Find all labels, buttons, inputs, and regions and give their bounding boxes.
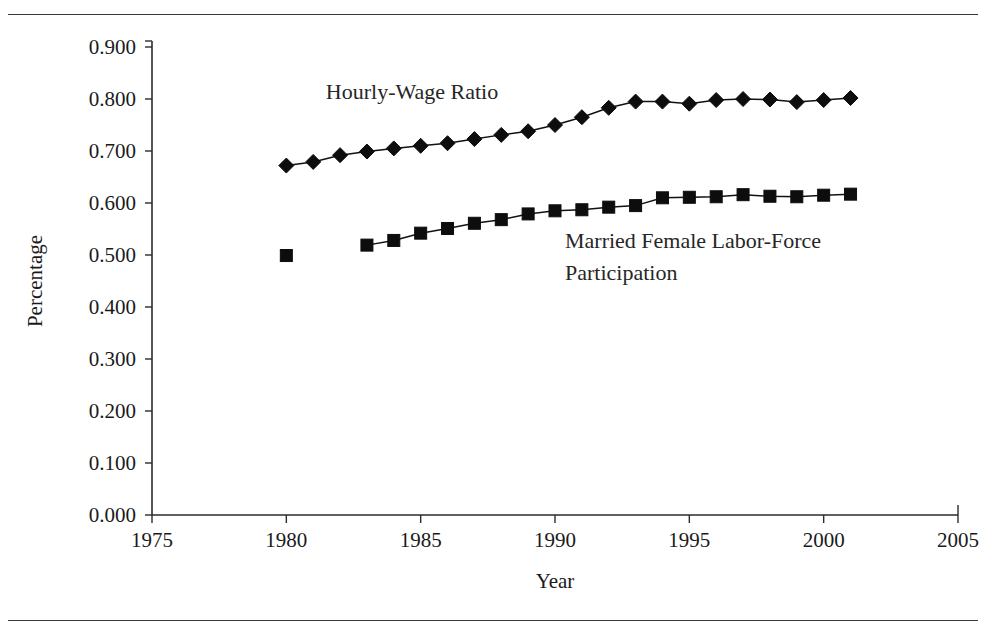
chart-plot: 0.0000.1000.2000.3000.4000.5000.6000.700… — [0, 0, 986, 637]
data-point-diamond — [789, 95, 804, 110]
y-tick-label: 0.500 — [89, 243, 136, 267]
data-point-square — [683, 191, 695, 203]
y-tick-label: 0.600 — [89, 191, 136, 215]
x-tick-label: 2005 — [937, 528, 979, 552]
series-annotation-hourly-wage-ratio: Hourly-Wage Ratio — [326, 79, 498, 104]
data-point-square — [415, 227, 427, 239]
data-point-square — [280, 250, 292, 262]
y-tick-label: 0.200 — [89, 399, 136, 423]
x-tick-label: 2000 — [803, 528, 845, 552]
data-point-diamond — [548, 118, 563, 133]
data-point-diamond — [440, 136, 455, 151]
x-tick-label: 1975 — [131, 528, 173, 552]
data-point-square — [522, 208, 534, 220]
data-point-square — [656, 192, 668, 204]
data-point-diamond — [467, 132, 482, 147]
data-point-diamond — [762, 92, 777, 107]
y-tick-label: 0.300 — [89, 347, 136, 371]
labels-layer: 0.0000.1000.2000.3000.4000.5000.6000.700… — [23, 35, 979, 593]
data-point-diamond — [682, 96, 697, 111]
data-point-square — [791, 191, 803, 203]
data-point-square — [818, 189, 830, 201]
data-point-square — [495, 214, 507, 226]
x-tick-label: 1995 — [668, 528, 710, 552]
data-point-diamond — [601, 100, 616, 115]
data-point-diamond — [279, 158, 294, 173]
data-point-square — [764, 190, 776, 202]
data-point-square — [710, 191, 722, 203]
series-annotation-married-female-lfp-line2: Participation — [565, 260, 677, 285]
data-point-diamond — [386, 141, 401, 156]
figure-container: 0.0000.1000.2000.3000.4000.5000.6000.700… — [0, 0, 986, 637]
y-axis-title: Percentage — [23, 235, 47, 327]
y-tick-label: 0.000 — [89, 503, 136, 527]
data-point-diamond — [306, 154, 321, 169]
data-point-square — [442, 222, 454, 234]
y-tick-label: 0.400 — [89, 295, 136, 319]
data-point-diamond — [333, 148, 348, 163]
y-tick-label: 0.700 — [89, 139, 136, 163]
data-point-diamond — [521, 124, 536, 139]
y-tick-label: 0.800 — [89, 87, 136, 111]
y-tick-label: 0.900 — [89, 35, 136, 59]
data-point-square — [468, 217, 480, 229]
x-tick-label: 1985 — [400, 528, 442, 552]
data-point-square — [845, 188, 857, 200]
data-point-square — [630, 200, 642, 212]
data-point-diamond — [359, 144, 374, 159]
x-axis-title: Year — [536, 569, 575, 593]
data-point-diamond — [655, 94, 670, 109]
data-point-square — [576, 204, 588, 216]
data-point-diamond — [816, 93, 831, 108]
data-point-diamond — [736, 92, 751, 107]
data-point-diamond — [574, 110, 589, 125]
data-point-diamond — [709, 93, 724, 108]
x-tick-label: 1980 — [265, 528, 307, 552]
data-point-diamond — [413, 138, 428, 153]
y-tick-label: 0.100 — [89, 451, 136, 475]
x-tick-label: 1990 — [534, 528, 576, 552]
axes-layer — [145, 41, 958, 523]
data-point-square — [388, 234, 400, 246]
data-point-square — [737, 189, 749, 201]
data-point-diamond — [494, 127, 509, 142]
data-point-diamond — [628, 94, 643, 109]
data-point-square — [361, 239, 373, 251]
data-point-square — [603, 201, 615, 213]
data-point-diamond — [843, 90, 858, 105]
data-point-square — [549, 205, 561, 217]
series-annotation-married-female-lfp-line1: Married Female Labor-Force — [565, 228, 821, 253]
